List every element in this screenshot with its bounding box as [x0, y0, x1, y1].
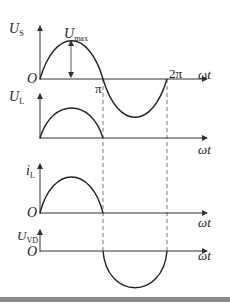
x-axis-label-1: ωt [198, 68, 211, 81]
x-axis-label-2: ωt [198, 143, 211, 156]
two-pi-tick-label: 2π [169, 67, 182, 80]
bottom-divider-bar [0, 297, 230, 302]
origin-label-1: O [27, 72, 37, 86]
x-axis-label-4: ωt [198, 249, 211, 262]
il-label: iL [26, 164, 35, 180]
il-curve [40, 177, 103, 213]
panel-ul [40, 94, 207, 139]
origin-label-4: O [27, 245, 37, 259]
x-axis-label-3: ωt [198, 216, 211, 229]
us-label: US [9, 22, 24, 38]
uvd-curve [103, 251, 167, 288]
ul-label: UL [9, 90, 24, 106]
pi-tick-label: π [95, 82, 102, 95]
ul-curve [40, 108, 103, 138]
origin-label-3: O [27, 206, 37, 220]
guide-lines [103, 79, 167, 251]
panel-uvd [40, 230, 207, 288]
umax-label: Umax [64, 27, 88, 43]
panel-il [40, 164, 207, 214]
uvd-label: UVD [17, 229, 38, 245]
